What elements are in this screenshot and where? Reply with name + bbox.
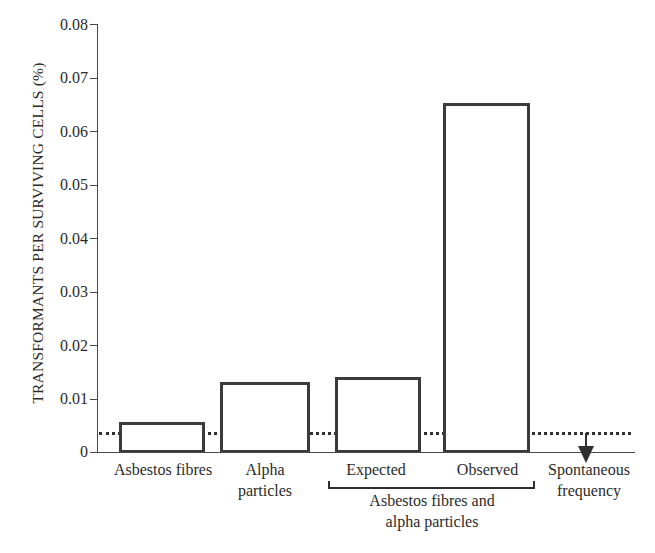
y-tick-label-0.05: 0.05 (28, 176, 88, 194)
y-tick-label-0: 0 (28, 443, 88, 461)
y-axis-tick-labels: 0.08 0.07 0.06 0.05 0.04 0.03 0.02 0.01 … (26, 0, 88, 553)
x-label-alpha-particles: Alpha particles (215, 459, 315, 501)
bar-asbestos-fibres (119, 422, 205, 453)
group-caption-line1: Asbestos fibres and (318, 490, 546, 511)
y-tick-label-0.08: 0.08 (28, 16, 88, 34)
annotation-spontaneous-frequency: Spontaneous frequency (533, 459, 645, 501)
group-caption-asbestos-and-alpha: Asbestos fibres and alpha particles (318, 490, 546, 532)
spontaneous-frequency-line2: frequency (533, 480, 645, 501)
x-axis-line (97, 452, 635, 453)
y-tick-label-0.04: 0.04 (28, 230, 88, 248)
y-tick-label-0.06: 0.06 (28, 123, 88, 141)
spontaneous-frequency-line1: Spontaneous (533, 459, 645, 480)
group-bracket (328, 481, 535, 489)
x-label-alpha-particles-line2: particles (215, 480, 315, 501)
group-caption-line2: alpha particles (318, 511, 546, 532)
y-tick-label-0.02: 0.02 (28, 337, 88, 355)
x-label-expected: Expected (330, 459, 422, 480)
x-label-asbestos-fibres: Asbestos fibres (102, 459, 224, 480)
y-tick-label-0.01: 0.01 (28, 390, 88, 408)
y-tick-label-0.03: 0.03 (28, 283, 88, 301)
bar-observed (443, 103, 530, 453)
x-label-alpha-particles-line1: Alpha (215, 459, 315, 480)
transformation-frequency-bar-chart: TRANSFORMANTS PER SURVIVING CELLS (%) 0.… (0, 0, 655, 553)
y-tick-label-0.07: 0.07 (28, 69, 88, 87)
bar-expected (335, 377, 421, 453)
x-label-observed: Observed (440, 459, 535, 480)
bar-alpha-particles (220, 382, 310, 453)
y-axis-line (97, 24, 98, 453)
